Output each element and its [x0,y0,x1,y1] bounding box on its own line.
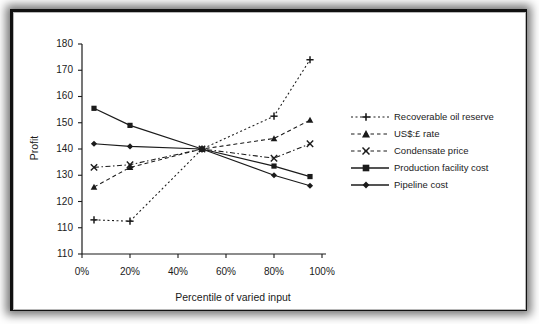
triangle-marker-icon [351,127,389,141]
line-chart: Profit Percentile of varied input 180 17… [13,12,526,310]
legend-label: Condensate price [394,145,468,156]
series-lines [90,56,313,225]
diamond-marker-icon [351,178,389,192]
legend-label: US$:£ rate [394,128,439,139]
legend-label: Recoverable oil reserve [394,111,494,122]
legend-label: Production facility cost [394,162,489,173]
legend-item[interactable]: Recoverable oil reserve [351,108,526,125]
square-marker-icon [351,161,389,175]
chart-legend: Recoverable oil reserve US$:£ rate [351,108,526,193]
legend-item[interactable]: Production facility cost [351,159,526,176]
plus-marker-icon [351,110,389,124]
legend-label: Pipeline cost [394,179,448,190]
x-marker-icon [351,144,389,158]
legend-item[interactable]: US$:£ rate [351,125,526,142]
legend-item[interactable]: Condensate price [351,142,526,159]
legend-item[interactable]: Pipeline cost [351,176,526,193]
photo-frame: Profit Percentile of varied input 180 17… [0,0,539,324]
